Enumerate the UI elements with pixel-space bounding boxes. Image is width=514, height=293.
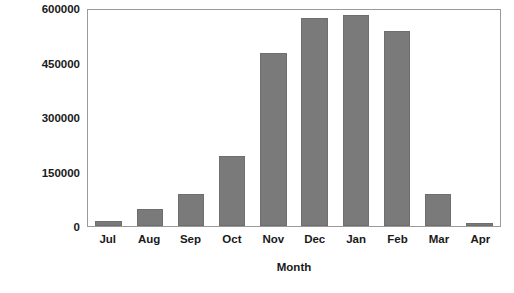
- plot-area: [87, 9, 501, 227]
- x-axis-tick-label: Sep: [170, 232, 211, 246]
- bar[interactable]: [95, 221, 121, 226]
- y-axis-tick-label: 150000: [28, 167, 80, 178]
- x-axis-tick-label: Dec: [294, 232, 335, 246]
- x-axis-tick-label: Jan: [335, 232, 376, 246]
- bar-slot: [418, 10, 459, 226]
- x-axis-title: Month: [87, 261, 501, 273]
- x-axis-tick-label: Mar: [418, 232, 459, 246]
- x-axis-tick-label: Oct: [211, 232, 252, 246]
- bar[interactable]: [178, 194, 204, 226]
- x-axis-tick-label: Aug: [128, 232, 169, 246]
- bars-container: [88, 10, 500, 226]
- y-axis-tick-labels: 0150000300000450000600000: [28, 0, 80, 240]
- bar[interactable]: [137, 209, 163, 226]
- bar-slot: [170, 10, 211, 226]
- y-axis-tick-label: 450000: [28, 58, 80, 69]
- bar-slot: [88, 10, 129, 226]
- bar-slot: [253, 10, 294, 226]
- bar-slot: [129, 10, 170, 226]
- bar[interactable]: [219, 156, 245, 226]
- x-axis-tick-labels: JulAugSepOctNovDecJanFebMarApr: [87, 232, 501, 252]
- y-axis-tick-label: 0: [28, 222, 80, 233]
- bar-slot: [376, 10, 417, 226]
- bar-slot: [459, 10, 500, 226]
- bar-slot: [294, 10, 335, 226]
- bar-slot: [212, 10, 253, 226]
- x-axis-tick-label: Jul: [87, 232, 128, 246]
- bar[interactable]: [343, 15, 369, 226]
- bar[interactable]: [466, 223, 492, 226]
- bar[interactable]: [384, 31, 410, 226]
- x-axis-tick-label: Apr: [460, 232, 501, 246]
- bar-slot: [335, 10, 376, 226]
- y-axis-tick-label: 600000: [28, 4, 80, 15]
- x-axis-tick-label: Nov: [253, 232, 294, 246]
- x-axis-tick-label: Feb: [377, 232, 418, 246]
- bar[interactable]: [301, 18, 327, 226]
- bar-chart: Cumulative WeBS total 015000030000045000…: [0, 0, 514, 293]
- bar[interactable]: [260, 53, 286, 226]
- bar[interactable]: [425, 194, 451, 226]
- y-axis-tick-label: 300000: [28, 113, 80, 124]
